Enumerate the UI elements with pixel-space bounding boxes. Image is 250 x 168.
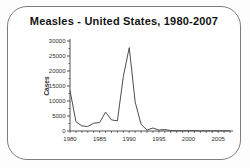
- cases-line-chart: 0500010000150002000025000300001980198519…: [44, 34, 236, 148]
- y-tick-label: 15000: [49, 83, 66, 89]
- x-tick-label: 1980: [63, 136, 77, 142]
- y-tick-label: 0: [62, 128, 66, 134]
- y-tick-label: 20000: [49, 68, 66, 74]
- y-tick-label: 25000: [49, 53, 66, 59]
- x-tick-label: 1990: [123, 136, 137, 142]
- series-line-measles-cases: [70, 48, 230, 131]
- chart-title: Measles - United States, 1980-2007: [8, 15, 240, 27]
- x-tick-label: 2005: [211, 136, 225, 142]
- y-tick-label: 5000: [52, 113, 66, 119]
- x-tick-label: 1995: [152, 136, 166, 142]
- y-axis-label: Cases: [44, 76, 50, 96]
- slide-frame: Measles - United States, 1980-2007 05000…: [7, 6, 241, 160]
- x-tick-label: 2000: [182, 136, 196, 142]
- y-tick-label: 10000: [49, 98, 66, 104]
- x-tick-label: 1985: [93, 136, 107, 142]
- chart-area: 0500010000150002000025000300001980198519…: [44, 34, 240, 152]
- y-tick-label: 30000: [49, 38, 66, 44]
